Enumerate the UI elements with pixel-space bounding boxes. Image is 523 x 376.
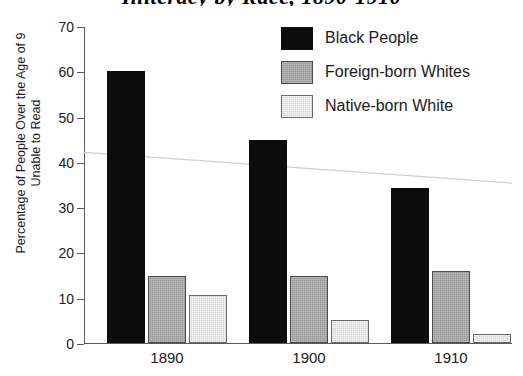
y-tick-label: 20: [58, 245, 74, 261]
legend-swatch: [281, 27, 313, 50]
bar: [331, 320, 369, 343]
legend-label: Foreign-born Whites: [325, 63, 470, 81]
bar: [189, 295, 227, 343]
bar: [107, 71, 145, 343]
chart-figure: Illiteracy by Race, 1890-1910 Percentage…: [0, 0, 523, 376]
x-tick-label: 1910: [434, 349, 467, 366]
y-tick-label: 60: [58, 64, 74, 80]
y-tick-label: 10: [58, 291, 74, 307]
bar: [391, 188, 429, 343]
chart-legend: Black PeopleForeign-born WhitesNative-bo…: [281, 21, 470, 123]
legend-item: Black People: [281, 21, 470, 55]
chart-title: Illiteracy by Race, 1890-1910: [0, 0, 523, 6]
x-tick-label: 1890: [150, 349, 183, 366]
y-tick-label: 50: [58, 110, 74, 126]
y-tick-mark: [77, 118, 84, 119]
legend-item: Native-born White: [281, 89, 470, 123]
y-axis-title: Percentage of People Over the Age of 9 U…: [14, 0, 44, 293]
y-tick-label: 70: [58, 19, 74, 35]
y-axis-line: [84, 27, 85, 344]
y-tick-mark: [77, 299, 84, 300]
x-axis-line: [84, 343, 512, 344]
y-axis-title-line-2: Unable to Read: [29, 0, 44, 293]
bar: [148, 276, 186, 343]
legend-label: Black People: [325, 29, 418, 47]
bar: [432, 271, 470, 343]
y-tick-label: 0: [66, 336, 74, 352]
x-tick-label: 1900: [292, 349, 325, 366]
y-axis-title-line-1: Percentage of People Over the Age of 9: [14, 0, 29, 293]
y-tick-mark: [77, 208, 84, 209]
legend-label: Native-born White: [325, 97, 453, 115]
y-tick-mark: [77, 344, 84, 345]
legend-swatch: [281, 61, 313, 84]
y-tick-label: 40: [58, 155, 74, 171]
trend-line-segment: [84, 152, 512, 183]
bar: [290, 276, 328, 343]
bar: [249, 140, 287, 343]
legend-item: Foreign-born Whites: [281, 55, 470, 89]
y-tick-mark: [77, 163, 84, 164]
y-tick-mark: [77, 27, 84, 28]
legend-swatch: [281, 95, 313, 118]
y-tick-mark: [77, 72, 84, 73]
bar: [473, 334, 511, 344]
y-tick-mark: [77, 253, 84, 254]
y-tick-label: 30: [58, 200, 74, 216]
